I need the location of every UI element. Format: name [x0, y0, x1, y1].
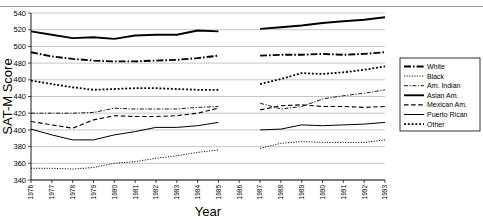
chart-figure: 3403603804004204404604805005205401976197… — [0, 0, 483, 222]
legend-label: Black — [427, 73, 445, 80]
x-tick-label: 1977 — [48, 185, 55, 200]
legend-label: Mexican Am. — [427, 101, 467, 108]
x-tick-label: 1983 — [173, 185, 180, 200]
sat-m-line-chart: 3403603804004204404604805005205401976197… — [0, 0, 483, 222]
series-line — [31, 81, 218, 90]
series-line — [260, 140, 385, 148]
y-tick-label: 400 — [13, 126, 26, 135]
y-tick-label: 380 — [13, 142, 26, 151]
x-tick-label: 1987 — [256, 185, 263, 200]
x-tick-label: 1982 — [152, 185, 159, 200]
series-line — [31, 52, 218, 61]
series-line — [260, 66, 385, 84]
series-line — [260, 17, 385, 29]
legend-label: Am. Indian — [427, 82, 461, 89]
y-tick-label: 340 — [13, 176, 26, 185]
legend-label: Other — [427, 121, 445, 128]
x-tick-label: 1989 — [298, 185, 305, 200]
x-tick-label: 1986 — [236, 185, 243, 200]
x-tick-label: 1978 — [69, 185, 76, 200]
x-tick-label: 1979 — [90, 185, 97, 200]
x-tick-label: 1992 — [361, 185, 368, 200]
legend-label: Puerto Rican — [427, 111, 468, 118]
y-axis-title: SAT-M Score — [0, 58, 15, 134]
series-line — [260, 105, 385, 110]
x-tick-label: 1985 — [215, 185, 222, 200]
x-tick-label: 1980 — [111, 185, 118, 200]
x-axis-title: Year — [195, 204, 222, 219]
y-tick-label: 360 — [13, 159, 26, 168]
x-tick-label: 1990 — [319, 185, 326, 200]
series-line — [260, 52, 385, 55]
legend-label: Asian Am. — [427, 92, 459, 99]
y-tick-label: 520 — [13, 25, 26, 34]
x-tick-label: 1988 — [277, 185, 284, 200]
y-tick-label: 540 — [13, 9, 26, 18]
y-tick-label: 500 — [13, 42, 26, 51]
y-tick-label: 480 — [13, 59, 26, 68]
series-line — [31, 107, 218, 114]
series-line — [31, 31, 218, 39]
series-line — [31, 150, 218, 169]
x-tick-label: 1976 — [27, 185, 34, 200]
x-tick-label: 1981 — [132, 185, 139, 200]
legend-label: White — [427, 63, 445, 70]
x-tick-label: 1984 — [194, 185, 201, 200]
series-line — [260, 122, 385, 129]
x-tick-label: 1991 — [340, 185, 347, 200]
y-tick-label: 440 — [13, 92, 26, 101]
x-tick-label: 1993 — [381, 185, 388, 200]
series-line — [31, 122, 218, 139]
series-line — [260, 90, 385, 109]
y-tick-label: 420 — [13, 109, 26, 118]
series-line — [31, 108, 218, 128]
y-tick-label: 460 — [13, 75, 26, 84]
